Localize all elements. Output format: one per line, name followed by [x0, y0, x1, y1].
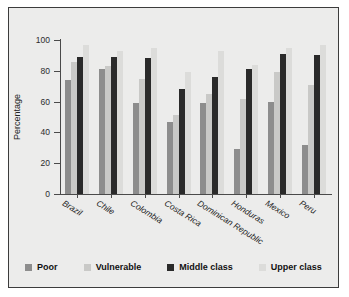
bar-group: [65, 40, 89, 194]
y-tick-label: 0: [45, 190, 50, 199]
x-tick-label: Chile: [95, 198, 117, 217]
legend-swatch-icon: [25, 264, 32, 271]
x-tick-label: Colombia: [128, 198, 164, 226]
legend-swatch-icon: [84, 264, 91, 271]
x-tick-label: Mexico: [264, 198, 292, 221]
bar-group: [200, 40, 224, 194]
legend-label: Upper class: [271, 262, 322, 272]
bar-group: [234, 40, 258, 194]
bar: [320, 45, 326, 194]
bar: [83, 45, 89, 194]
bar-group: [133, 40, 157, 194]
x-tick-mark: [145, 194, 146, 198]
bar-group: [167, 40, 191, 194]
x-tick-mark: [111, 194, 112, 198]
x-tick-mark: [280, 194, 281, 198]
x-tick-mark: [246, 194, 247, 198]
chart-figure: Percentage 020406080100 BrazilChileColom…: [8, 7, 339, 288]
legend-swatch-icon: [167, 264, 174, 271]
bar: [117, 51, 123, 194]
y-tick-mark: [54, 194, 60, 195]
bar: [218, 51, 224, 194]
y-axis-label: Percentage: [12, 94, 22, 140]
bar: [252, 65, 258, 194]
bar: [151, 48, 157, 194]
x-axis-line: [60, 194, 332, 195]
x-tick-mark: [179, 194, 180, 198]
x-tick-label: Brazil: [61, 198, 84, 218]
plot-area: [60, 40, 331, 194]
legend-item[interactable]: Poor: [25, 262, 58, 272]
bar: [286, 48, 292, 194]
x-tick-mark: [314, 194, 315, 198]
y-tick-label: 60: [41, 97, 50, 106]
legend-item[interactable]: Upper class: [259, 262, 322, 272]
bar-group: [99, 40, 123, 194]
x-tick-mark: [77, 194, 78, 198]
legend-label: Poor: [37, 262, 58, 272]
x-tick-label: Peru: [298, 198, 319, 216]
legend-label: Vulnerable: [96, 262, 142, 272]
legend-item[interactable]: Middle class: [167, 262, 233, 272]
y-tick-label: 100: [36, 36, 50, 45]
y-tick-label: 40: [41, 128, 50, 137]
bar: [185, 72, 191, 194]
legend-label: Middle class: [179, 262, 233, 272]
bar-group: [268, 40, 292, 194]
legend-item[interactable]: Vulnerable: [84, 262, 142, 272]
x-tick-mark: [212, 194, 213, 198]
legend-swatch-icon: [259, 264, 266, 271]
bar-group: [302, 40, 326, 194]
chart-legend: PoorVulnerableMiddle classUpper class: [9, 262, 338, 272]
y-tick-label: 80: [41, 67, 50, 76]
y-tick-label: 20: [41, 159, 50, 168]
